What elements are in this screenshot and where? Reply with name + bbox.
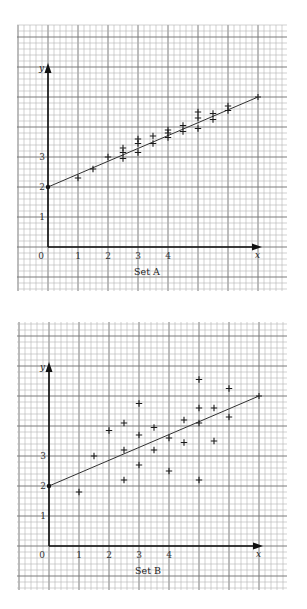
x-tick-label: 0 [39,550,45,560]
data-point-plus-marker [76,489,82,495]
graph-paper-grid [17,25,287,291]
chart-title: Set A [134,266,160,277]
data-point-plus-marker [136,400,142,406]
data-point-plus-marker [196,376,202,382]
data-point-plus-marker [196,405,202,411]
data-point-plus-marker [225,107,231,113]
data-point-plus-marker [151,447,157,453]
x-tick-label: 2 [106,550,112,560]
y-tick-label: 1 [39,212,45,222]
x-tick-label: 1 [76,550,82,560]
data-point-plus-marker [105,154,111,160]
data-point-plus-marker [195,125,201,131]
data-point-plus-marker [121,420,127,426]
y-axis-label: y [38,63,45,73]
data-point-plus-marker [195,109,201,115]
y-tick-label: 2 [39,182,45,192]
x-tick-label: 0 [38,251,44,261]
data-point-plus-marker [121,447,127,453]
data-point-plus-marker [151,424,157,430]
intercept-dot [46,185,50,189]
data-point-plus-marker [166,468,172,474]
y-tick-label: 2 [40,481,46,491]
data-point-plus-marker [211,405,217,411]
data-point-plus-marker [226,414,232,420]
data-point-plus-marker [196,477,202,483]
graph-paper-grid [17,322,287,590]
data-point-plus-marker [136,432,142,438]
data-point-plus-marker [150,133,156,139]
data-point-plus-marker [136,462,142,468]
x-axis-label: x [255,250,260,260]
y-tick-label: 1 [40,511,46,521]
y-tick-label: 3 [39,152,45,162]
x-tick-label: 4 [166,550,172,560]
intercept-dot [47,484,51,488]
best-fit-line [49,396,259,486]
chart-svg: 01234123 y x Set B [0,300,307,600]
data-point-plus-marker [120,149,126,155]
x-tick-label: 2 [105,251,111,261]
scatter-chart-set-a: 01234123 y x Set A [0,0,307,300]
data-point-plus-marker [75,175,81,181]
scatter-chart-set-b: 01234123 y x Set B [0,300,307,600]
data-point-plus-marker [121,477,127,483]
y-tick-label: 3 [40,451,46,461]
chart-title: Set B [135,565,161,576]
x-tick-label: 4 [165,251,171,261]
x-tick-label: 1 [75,251,81,261]
data-point-plus-marker [211,438,217,444]
data-point-plus-marker [180,128,186,134]
data-point-plus-marker [91,453,97,459]
data-point-plus-marker [195,115,201,121]
x-tick-label: 3 [135,251,141,261]
x-tick-label: 3 [136,550,142,560]
data-point-plus-marker [181,417,187,423]
data-point-plus-marker [165,134,171,140]
data-point-plus-marker [106,427,112,433]
x-axis-label: x [256,549,261,559]
data-point-plus-marker [135,140,141,146]
data-point-plus-marker [181,439,187,445]
tick-labels: 01234123 [38,152,171,261]
chart-svg: 01234123 y x Set A [0,0,307,300]
y-axis-label: y [39,362,46,372]
data-point-plus-marker [226,385,232,391]
tick-labels: 01234123 [39,451,172,560]
data-point-plus-marker [135,149,141,155]
